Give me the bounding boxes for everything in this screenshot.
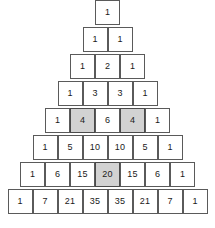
triangle-cell: 1 [158, 135, 183, 160]
triangle-cell: 1 [20, 162, 45, 187]
triangle-cell: 3 [83, 81, 108, 106]
triangle-row: 1 [0, 0, 215, 25]
triangle-cell: 1 [83, 27, 108, 52]
triangle-cell: 1 [8, 189, 33, 214]
triangle-cell: 15 [120, 162, 145, 187]
triangle-row: 121 [0, 54, 215, 79]
triangle-row: 15101051 [0, 135, 215, 160]
triangle-cell: 7 [33, 189, 58, 214]
triangle-cell: 6 [145, 162, 170, 187]
triangle-cell: 1 [95, 0, 120, 25]
triangle-cell: 15 [70, 162, 95, 187]
triangle-cell: 7 [158, 189, 183, 214]
triangle-row: 1615201561 [0, 162, 215, 187]
triangle-cell: 1 [145, 108, 170, 133]
triangle-cell: 1 [183, 189, 208, 214]
triangle-cell: 1 [133, 81, 158, 106]
triangle-row: 172135352171 [0, 189, 215, 214]
triangle-row: 1331 [0, 81, 215, 106]
triangle-cell: 21 [133, 189, 158, 214]
triangle-cell: 10 [83, 135, 108, 160]
triangle-cell: 2 [95, 54, 120, 79]
triangle-cell: 1 [45, 108, 70, 133]
triangle-cell: 10 [108, 135, 133, 160]
triangle-cell: 21 [58, 189, 83, 214]
triangle-cell: 1 [170, 162, 195, 187]
triangle-cell-highlighted: 4 [120, 108, 145, 133]
triangle-cell-highlighted: 4 [70, 108, 95, 133]
triangle-cell-highlighted: 20 [95, 162, 120, 187]
triangle-row: 11 [0, 27, 215, 52]
triangle-cell: 6 [95, 108, 120, 133]
triangle-cell: 35 [83, 189, 108, 214]
triangle-cell: 1 [108, 27, 133, 52]
triangle-cell: 1 [120, 54, 145, 79]
pascals-triangle-diagram: 1111211331146411510105116152015611721353… [0, 0, 215, 228]
triangle-cell: 1 [33, 135, 58, 160]
triangle-cell: 5 [133, 135, 158, 160]
triangle-cell: 1 [58, 81, 83, 106]
triangle-cell: 5 [58, 135, 83, 160]
triangle-cell: 1 [70, 54, 95, 79]
triangle-cell: 35 [108, 189, 133, 214]
triangle-row: 14641 [0, 108, 215, 133]
triangle-cell: 6 [45, 162, 70, 187]
triangle-cell: 3 [108, 81, 133, 106]
